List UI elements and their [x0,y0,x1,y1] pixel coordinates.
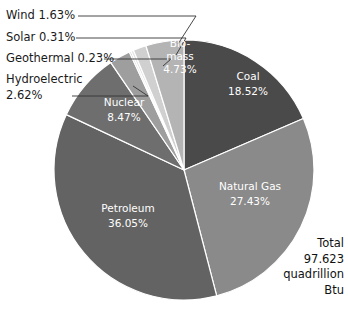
slice-label-biomass-percent: 4.73% [163,63,196,75]
label-wind: Wind 1.63% [6,8,75,23]
slice-label-biomass-line2: mass [166,50,194,62]
total-unit-line1: quadrillion [283,267,344,283]
pie-chart-figure: Coal18.52%Natural Gas27.43%Petroleum36.0… [0,0,348,315]
slice-label-natural-gas-name: Natural Gas [219,180,281,192]
slice-label-nuclear-name: Nuclear [104,96,145,108]
total-unit-line2: Btu [283,283,344,299]
slice-label-coal-name: Coal [236,70,259,82]
slice-label-coal-percent: 18.52% [228,85,268,97]
total-annotation: Total 97.623 quadrillion Btu [283,236,344,298]
slice-label-biomass-line1: Bio- [170,37,191,49]
label-solar: Solar 0.31% [6,30,76,45]
label-hydroelectric-name: Hydroelectric [6,72,83,87]
total-value: 97.623 [283,252,344,268]
label-hydroelectric-percent: 2.62% [6,88,43,103]
label-geothermal: Geothermal 0.23% [6,51,114,66]
total-label: Total [283,236,344,252]
slice-label-petroleum-percent: 36.05% [108,217,148,229]
slice-label-nuclear-percent: 8.47% [107,111,140,123]
pie-slices-group [54,40,314,300]
slice-label-natural-gas-percent: 27.43% [230,195,270,207]
slice-label-petroleum-name: Petroleum [101,202,154,214]
